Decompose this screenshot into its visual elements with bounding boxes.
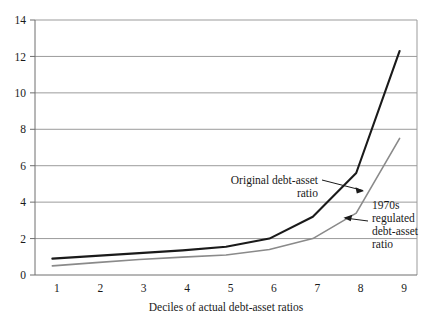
y-tick-label-0: 0 bbox=[20, 269, 26, 281]
y-tick-label-2: 2 bbox=[20, 233, 26, 245]
x-tick-labels: 1 2 3 4 5 6 7 8 9 bbox=[54, 282, 407, 294]
annotation-original-line-2: ratio bbox=[297, 187, 318, 199]
plot-background bbox=[35, 20, 417, 275]
x-tick-label-8: 8 bbox=[358, 282, 364, 294]
y-tick-labels: 14 12 10 8 6 4 2 0 bbox=[15, 14, 27, 281]
line-chart-figure: 14 12 10 8 6 4 2 0 1 2 3 4 5 6 7 8 9 bbox=[0, 0, 428, 324]
annotation-original-line-1: Original debt-asset bbox=[231, 174, 319, 187]
x-tick-label-5: 5 bbox=[228, 282, 234, 294]
x-tick-label-4: 4 bbox=[184, 282, 190, 294]
y-tick-label-10: 10 bbox=[15, 87, 27, 99]
y-tick-label-8: 8 bbox=[20, 123, 26, 135]
x-axis-title: Deciles of actual debt-asset ratios bbox=[149, 301, 304, 313]
annotation-regulated-line-3: debt-asset bbox=[372, 225, 419, 237]
y-tick-label-4: 4 bbox=[20, 196, 26, 208]
y-tick-label-12: 12 bbox=[15, 51, 27, 63]
chart-canvas: 14 12 10 8 6 4 2 0 1 2 3 4 5 6 7 8 9 bbox=[0, 0, 428, 324]
annotation-regulated-line-1: 1970s bbox=[372, 199, 400, 211]
y-tick-label-14: 14 bbox=[15, 14, 27, 26]
chart-screenshot: 14 12 10 8 6 4 2 0 1 2 3 4 5 6 7 8 9 bbox=[0, 0, 428, 324]
annotation-regulated-line-2: regulated bbox=[372, 212, 415, 225]
x-tick-label-9: 9 bbox=[401, 282, 407, 294]
x-tick-label-2: 2 bbox=[97, 282, 103, 294]
annotation-regulated-line-4: ratio bbox=[372, 238, 393, 250]
y-tick-label-6: 6 bbox=[20, 160, 26, 172]
x-tick-label-3: 3 bbox=[141, 282, 147, 294]
x-tick-label-1: 1 bbox=[54, 282, 60, 294]
y-tick-marks bbox=[30, 20, 35, 275]
x-tick-label-7: 7 bbox=[314, 282, 320, 294]
x-tick-label-6: 6 bbox=[271, 282, 277, 294]
